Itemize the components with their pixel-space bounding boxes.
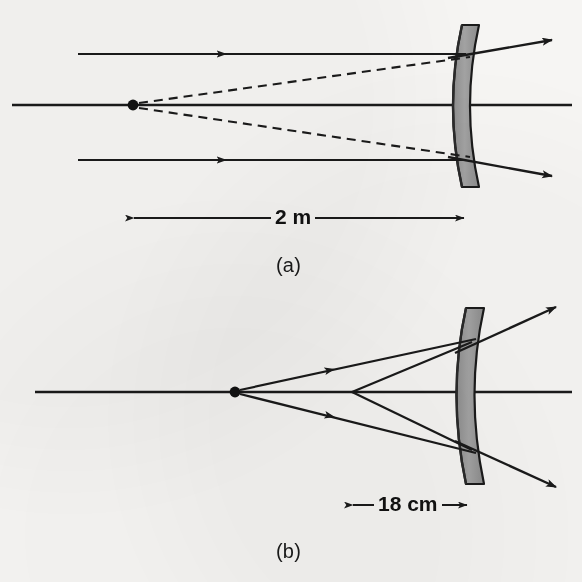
upper-incident-ray-b <box>240 339 476 390</box>
focal-point-a <box>128 100 139 111</box>
panel-b <box>35 307 572 505</box>
ray-diagram-svg <box>0 0 582 582</box>
upper-virtual-extension-a <box>139 57 470 103</box>
lower-incident-ray-b <box>240 394 476 453</box>
upper-converging-ray-b <box>352 342 472 392</box>
panel-caption-b: (b) <box>276 540 301 563</box>
dimension-label-18cm: 18 cm <box>374 492 442 516</box>
lower-virtual-extension-a <box>139 108 470 157</box>
lower-converging-ray-b <box>352 392 472 450</box>
dimension-label-2m: 2 m <box>271 205 315 229</box>
source-point-b <box>230 387 241 398</box>
panel-a <box>12 25 572 218</box>
panel-caption-a: (a) <box>276 254 301 277</box>
figure-canvas: 2 m 18 cm (a) (b) <box>0 0 582 582</box>
